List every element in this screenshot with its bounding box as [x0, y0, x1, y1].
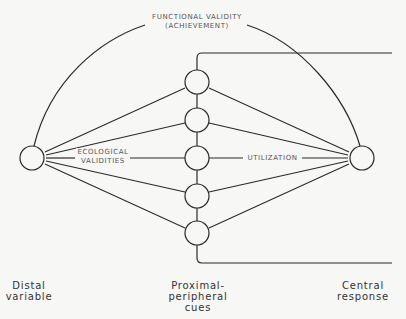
ecological-validities-label: ECOLOGICAL VALIDITIES — [76, 148, 130, 166]
distal-variable-caption: Distal variable — [0, 280, 58, 302]
feedback-line-bottom — [197, 245, 392, 263]
functional-validity-label: FUNCTIONAL VALIDITY (ACHIEVEMENT) — [148, 13, 246, 31]
utilization-label: UTILIZATION — [243, 154, 302, 163]
caption-line: peripheral — [160, 291, 236, 302]
utilization-line-4 — [209, 161, 348, 192]
caption-line: Proximal- — [160, 280, 236, 291]
lens-model-diagram — [0, 0, 406, 319]
caption-line: Distal — [0, 280, 58, 291]
cue-node-3 — [185, 146, 209, 170]
caption-line: variable — [0, 291, 58, 302]
functional-validity-text: FUNCTIONAL VALIDITY — [148, 13, 246, 22]
distal-variable-node — [20, 146, 44, 170]
cue-node-1 — [185, 70, 209, 94]
caption-line: Central — [330, 280, 396, 291]
achievement-text: (ACHIEVEMENT) — [148, 22, 246, 31]
caption-line: response — [330, 291, 396, 302]
achievement-arc-right — [247, 25, 360, 146]
cue-node-4 — [185, 184, 209, 208]
ecological-line-1 — [45, 88, 185, 152]
central-response-caption: Central response — [330, 280, 396, 302]
central-response-node — [350, 146, 374, 170]
achievement-arc-left — [34, 25, 145, 146]
ecological-line-5 — [45, 164, 185, 228]
cue-node-5 — [185, 221, 209, 245]
utilization-line-2 — [209, 123, 348, 155]
cue-node-2 — [185, 108, 209, 132]
caption-line: cues — [160, 302, 236, 313]
validities-text: VALIDITIES — [76, 157, 130, 166]
feedback-line-top — [197, 53, 392, 70]
utilization-text: UTILIZATION — [243, 154, 302, 163]
proximal-cues-caption: Proximal- peripheral cues — [160, 280, 236, 313]
ecological-text: ECOLOGICAL — [76, 148, 130, 157]
utilization-line-1 — [209, 88, 349, 152]
utilization-line-5 — [209, 164, 349, 228]
